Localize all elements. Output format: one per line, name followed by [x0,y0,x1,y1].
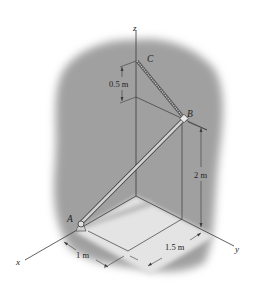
y-axis-label: y [234,244,239,254]
dim-label-1m: 1 m [76,250,89,260]
diagram-canvas: z y x 0.5 m 2 m 1 m 1.5 m B C [0,0,255,290]
arrow-icon [104,264,108,267]
point-label-b: B [187,109,193,119]
dim-label-1-5m: 1.5 m [165,242,185,252]
point-label-c: C [147,54,154,64]
dim-label-2m: 2 m [194,170,207,180]
statics-diagram: z y x 0.5 m 2 m 1 m 1.5 m B C [0,0,255,290]
dim-label-0-5m: 0.5 m [109,79,129,89]
joint-a [78,221,84,227]
z-axis-label: z [132,23,137,33]
x-axis-label: x [15,257,20,267]
point-label-a: A [66,214,73,224]
